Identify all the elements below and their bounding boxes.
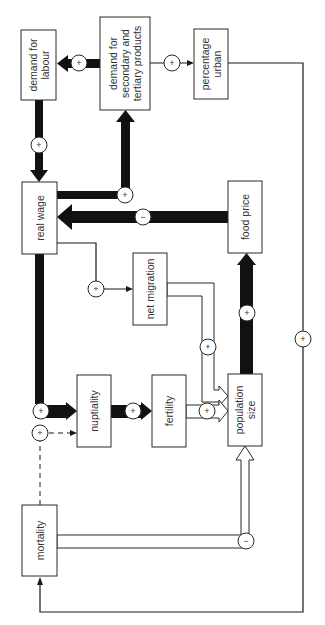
svg-text:urban: urban: [211, 50, 223, 77]
sign-mortality-to-population: −: [238, 533, 254, 549]
svg-text:−: −: [140, 212, 145, 222]
node-mortality: mortality: [22, 505, 57, 576]
svg-text:+: +: [122, 190, 127, 200]
svg-text:mortality: mortality: [34, 520, 46, 560]
node-demand-secondary-tertiary: demand for secondary and tertiary produc…: [100, 17, 150, 110]
svg-text:+: +: [93, 284, 98, 294]
svg-text:+: +: [204, 406, 209, 416]
sign-foodprice-to-realwage: −: [135, 209, 151, 225]
svg-text:size: size: [245, 401, 257, 420]
edge-mortality-to-population: [57, 446, 254, 548]
svg-text:nuptiality: nuptiality: [88, 390, 100, 432]
causal-loop-diagram: + + + + − + + + + + + +: [0, 0, 325, 625]
sign-labour-to-realwage: +: [31, 137, 47, 153]
svg-text:+: +: [300, 334, 305, 344]
svg-text:tertiary products: tertiary products: [131, 26, 143, 101]
svg-text:+: +: [37, 428, 42, 438]
svg-text:+: +: [244, 308, 249, 318]
svg-text:+: +: [38, 406, 43, 416]
svg-text:labour: labour: [39, 50, 51, 80]
sign-nuptiality-to-fertility: +: [125, 403, 141, 419]
sign-mortality-to-nuptiality: +: [32, 425, 48, 441]
svg-text:demand for: demand for: [27, 38, 39, 92]
edge-realwage-to-nuptiality: [35, 254, 77, 420]
svg-text:real wage: real wage: [34, 195, 46, 241]
sign-urban-to-mortality: +: [295, 331, 311, 347]
svg-text:demand for: demand for: [107, 36, 119, 90]
svg-text:secondary and: secondary and: [119, 29, 131, 98]
sign-realwage-to-netmigration: +: [88, 281, 104, 297]
svg-text:+: +: [76, 58, 81, 68]
sign-netmigration-to-population: +: [200, 339, 216, 355]
node-fertility: fertility: [152, 375, 186, 447]
svg-text:+: +: [169, 58, 174, 68]
node-net-migration: net migration: [133, 253, 167, 325]
sign-demand-to-labour: +: [71, 55, 87, 71]
node-food-price: food price: [228, 181, 262, 253]
sign-realwage-to-demand: +: [117, 187, 133, 203]
svg-text:percentage: percentage: [199, 38, 211, 91]
svg-text:food price: food price: [239, 194, 251, 240]
edge-realwage-to-demand: [57, 110, 135, 199]
node-demand-for-labour: demand for labour: [21, 30, 56, 100]
svg-text:population: population: [233, 386, 245, 435]
svg-text:+: +: [130, 406, 135, 416]
node-nuptiality: nuptiality: [77, 375, 111, 447]
sign-demand-to-urban: +: [164, 55, 180, 71]
svg-text:fertility: fertility: [163, 395, 175, 426]
edge-urban-to-mortality: [37, 63, 303, 612]
node-population-size: population size: [228, 374, 262, 446]
node-real-wage: real wage: [22, 182, 57, 254]
sign-fertility-to-population: +: [199, 403, 215, 419]
sign-realwage-to-nuptiality: +: [33, 403, 49, 419]
svg-text:+: +: [205, 342, 210, 352]
node-percentage-urban: percentage urban: [194, 29, 228, 99]
sign-population-to-foodprice: +: [239, 305, 255, 321]
edge-mortality-to-nuptiality: [40, 430, 77, 505]
svg-text:net migration: net migration: [144, 258, 156, 319]
svg-text:−: −: [243, 536, 248, 546]
svg-text:+: +: [36, 140, 41, 150]
